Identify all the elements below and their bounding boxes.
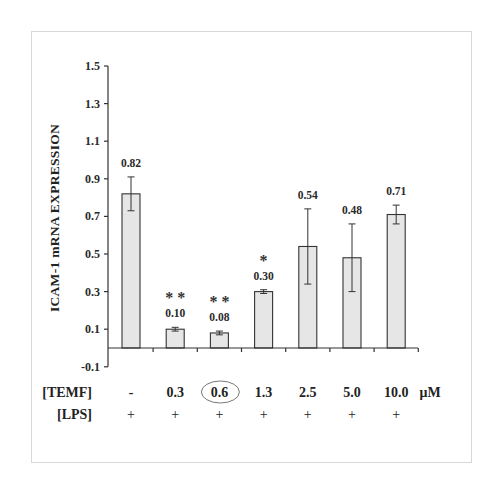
row-label: [TEMF] (42, 385, 92, 400)
bar-group: 0.54 (298, 189, 318, 348)
significance-marker: * * (209, 293, 229, 310)
lps-value: + (127, 407, 135, 422)
y-tick-label: 1.5 (85, 59, 100, 73)
temf-value: - (129, 385, 134, 400)
y-tick-label: 1.3 (85, 97, 100, 111)
x-axis (108, 348, 418, 352)
bar-group: 0.71 (386, 185, 406, 348)
temf-value: 0.3 (166, 385, 184, 400)
value-label: 0.82 (121, 157, 141, 169)
value-label: 0.54 (298, 189, 318, 201)
temf-value: 2.5 (299, 385, 317, 400)
y-axis-label: ICAM-1 mRNA EXPRESSION (47, 124, 62, 312)
y-tick-label: 0.7 (85, 209, 100, 223)
lps-value: + (348, 407, 356, 422)
value-label: 0.08 (209, 311, 229, 323)
significance-marker: * (260, 252, 268, 269)
bar-chart: -0.10.10.30.50.70.91.11.31.5 0.820.10* *… (0, 0, 499, 492)
lps-value: + (304, 407, 312, 422)
y-tick-label: 0.3 (85, 285, 100, 299)
y-axis: -0.10.10.30.50.70.91.11.31.5 (81, 59, 108, 374)
lps-value: + (260, 407, 268, 422)
y-tick-label: 0.9 (85, 172, 100, 186)
temf-value: 10.0 (384, 385, 409, 400)
value-label: 0.48 (342, 204, 362, 216)
lps-value: + (392, 407, 400, 422)
bar-group: 0.08* * (209, 293, 229, 348)
value-label: 0.71 (386, 185, 406, 197)
temf-value: 1.3 (255, 385, 273, 400)
x-category-rows: [TEMF]-0.30.61.32.55.010.0μM[LPS]+++++++ (42, 381, 441, 422)
y-tick-label: 1.1 (85, 134, 100, 148)
value-label: 0.30 (254, 270, 274, 282)
temf-value: 5.0 (343, 385, 361, 400)
y-tick-label: -0.1 (81, 360, 100, 374)
bar-group: 0.10* * (165, 289, 185, 348)
value-label: 0.10 (165, 307, 185, 319)
unit-label: μM (420, 385, 441, 400)
bar-group: 0.30* (254, 252, 274, 348)
bar-group: 0.82 (121, 157, 141, 348)
row-label: [LPS] (57, 407, 92, 422)
lps-value: + (215, 407, 223, 422)
bar-group: 0.48 (342, 204, 362, 348)
y-tick-label: 0.5 (85, 247, 100, 261)
bar (387, 215, 405, 348)
bar (122, 194, 140, 348)
significance-marker: * * (165, 289, 185, 306)
bar (255, 292, 273, 348)
temf-value: 0.6 (211, 385, 229, 400)
bars: 0.820.10* *0.08* *0.30*0.540.480.71 (121, 157, 407, 348)
bar (166, 329, 184, 348)
lps-value: + (171, 407, 179, 422)
y-tick-label: 0.1 (85, 322, 100, 336)
